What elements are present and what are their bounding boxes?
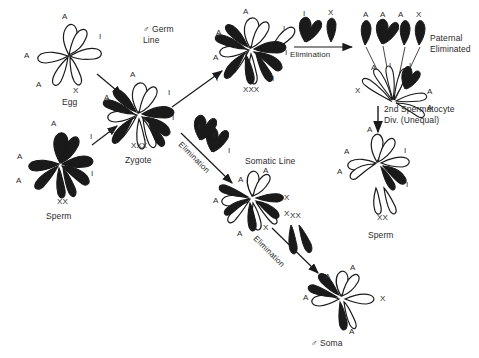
paternal-eliminated-label: Paternal Eliminated bbox=[430, 33, 478, 54]
egg-chromosome-label-a-top: A bbox=[62, 12, 67, 21]
soma-chromosome-label-a-top: A bbox=[350, 263, 355, 272]
sperm-product-sex-label: XX bbox=[377, 213, 388, 222]
soma-chromosome-label-a-bottom: A bbox=[349, 327, 354, 336]
cell-egg bbox=[38, 25, 101, 86]
paternal-remaining-label-a1: A bbox=[371, 63, 376, 72]
germ-line-label: ♂ Germ Line bbox=[143, 24, 193, 45]
cell-sperm bbox=[29, 133, 93, 198]
sperm-product-label-a-left: A bbox=[344, 147, 349, 156]
zygote-chromosome-label-a-left: A bbox=[104, 93, 109, 102]
zygote-chromosome-label-i-upper: I bbox=[168, 88, 170, 97]
paternal-remaining-label-i1: I bbox=[389, 61, 391, 70]
germline-eliminated-label-i: I bbox=[303, 9, 305, 18]
paternal-moving-label-a2: A bbox=[380, 10, 385, 19]
egg-label: Egg bbox=[62, 98, 77, 108]
eliminated-chromosomes-germline bbox=[299, 17, 336, 42]
germline-chromosome-label-i-right: I bbox=[285, 48, 287, 57]
eliminated-chromosomes-soma bbox=[289, 225, 312, 254]
sperm-product-label-a-lowerleft: A bbox=[337, 167, 342, 176]
germline-chromosome-label-a-upperleft: A bbox=[216, 28, 221, 37]
somatic-chromosome-label-a-bottom: A bbox=[237, 229, 242, 238]
sperm-label: Sperm bbox=[46, 212, 72, 222]
paternal-remaining-label-x: X bbox=[355, 86, 360, 95]
germline-sex-chromosome-label: XXX bbox=[243, 85, 259, 94]
paternal-remaining-label-a2: A bbox=[427, 87, 432, 96]
sperm-product-label-i-lower: I bbox=[406, 180, 408, 189]
germline-eliminated-label-x: X bbox=[328, 8, 333, 17]
cell-zygote bbox=[103, 83, 174, 149]
egg-sex-chromosome-label: X bbox=[73, 86, 78, 95]
egg-chromosome-label-i: I bbox=[99, 32, 101, 41]
sperm-product-label-i-upper: I bbox=[404, 146, 406, 155]
somatic-line-label: Somatic Line bbox=[245, 157, 295, 167]
paternal-moving-label-x: X bbox=[416, 10, 421, 19]
somatic-chromosome-label-x3: X bbox=[263, 223, 268, 232]
sperm-chromosome-label-i-upper: I bbox=[90, 132, 92, 141]
somatic-chromosome-label-a-upperleft: A bbox=[238, 175, 243, 184]
paternal-remaining-label-i2: I bbox=[409, 61, 411, 70]
sperm-chromosome-label-a-top: A bbox=[51, 119, 56, 128]
germline-chromosome-label-i-lowerright: I bbox=[272, 74, 274, 83]
somatic-eliminated-label-i3: I bbox=[228, 146, 230, 155]
somatic-chromosome-label-x2: X bbox=[284, 209, 289, 218]
germline-chromosome-label-a-lower: I bbox=[216, 74, 218, 83]
zygote-chromosome-label-a-lower: A bbox=[109, 126, 114, 135]
sperm-chromosome-label-a-left: A bbox=[17, 152, 22, 161]
sperm-chromosome-label-a-lower: A bbox=[16, 176, 21, 185]
soma-label: ♂ Soma bbox=[311, 339, 343, 349]
egg-chromosome-label-a-lower: A bbox=[36, 80, 41, 89]
sperm-chromosome-label-i-lower: I bbox=[91, 169, 93, 178]
soma-chromosome-label-a-left: A bbox=[303, 293, 308, 302]
somatic-eliminated-label-i2: I bbox=[213, 131, 215, 140]
paternal-moving-label-a1: A bbox=[363, 10, 368, 19]
zygote-label: Zygote bbox=[125, 156, 152, 166]
second-spermatocyte-label: 2nd Spermatocyte Div. (Unequal) bbox=[384, 104, 479, 125]
soma-chromosome-label-x: X bbox=[380, 294, 385, 303]
cell-sperm-product bbox=[348, 134, 409, 214]
eliminated-chromosomes-somatic bbox=[194, 115, 228, 152]
egg-chromosome-label-a-left: A bbox=[24, 51, 29, 60]
sperm-product-label-a-top: A bbox=[367, 125, 372, 134]
germline-chromosome-label-a-left: A bbox=[213, 53, 218, 62]
zygote-chromosome-label-a-top: A bbox=[130, 70, 135, 79]
paternal-moving-label-a3: A bbox=[398, 10, 403, 19]
germline-elimination-label: Elimination bbox=[290, 50, 330, 59]
zygote-sex-chromosome-label: XXX bbox=[131, 141, 147, 150]
arrow-zygote-to-germline bbox=[172, 71, 222, 107]
somatic-chromosome-label-x1: X bbox=[284, 193, 289, 202]
somatic-chromosome-label-a-left: A bbox=[213, 196, 218, 205]
soma-eliminated-label-xx: XX bbox=[290, 211, 301, 220]
sperm-product-label: Sperm bbox=[368, 231, 394, 241]
zygote-chromosome-label-i-lower: I bbox=[172, 113, 174, 122]
soma-chromosome-label-a-upperleft: A bbox=[325, 272, 330, 281]
sperm-sex-chromosome-label: XX bbox=[57, 197, 68, 206]
germline-chromosome-label-i-upper: I bbox=[283, 24, 285, 33]
somatic-eliminated-label-i1: I bbox=[198, 122, 200, 131]
germline-chromosome-label-a-top: A bbox=[243, 7, 248, 16]
somatic-chromosome-label-a-top: A bbox=[263, 166, 268, 175]
cell-soma bbox=[308, 271, 374, 330]
